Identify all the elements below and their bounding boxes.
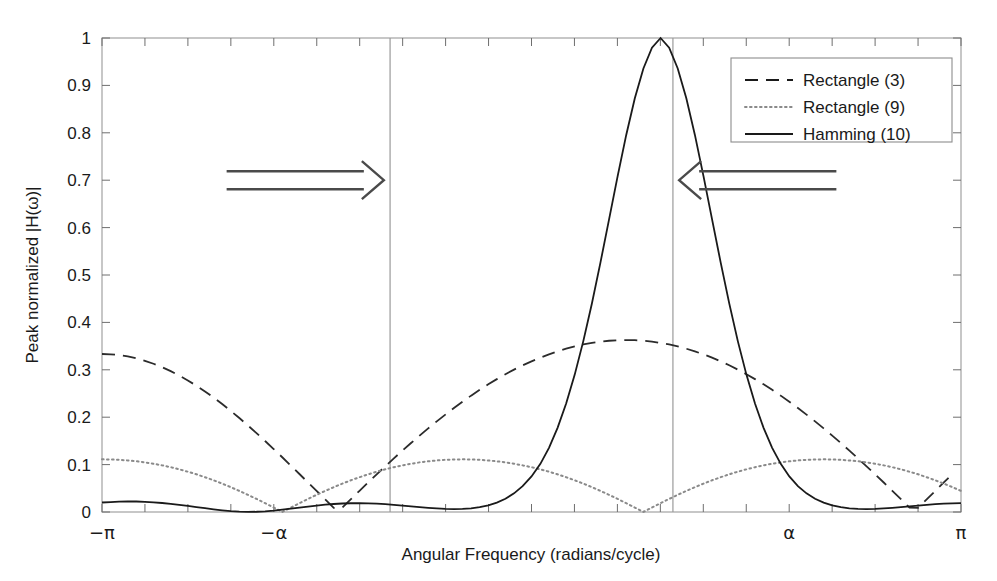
y-tick-label: 0.2: [67, 408, 91, 427]
x-tick-label: −π: [89, 522, 115, 543]
y-tick-label: 0.6: [67, 219, 91, 238]
frequency-response-plot: 00.10.20.30.40.50.60.70.80.91 −π−ααπ Pea…: [0, 0, 997, 581]
y-axis-label: Peak normalized |H(ω)|: [23, 186, 42, 363]
y-tick-label: 0.9: [67, 76, 91, 95]
chart-figure: 00.10.20.30.40.50.60.70.80.91 −π−ααπ Pea…: [0, 0, 997, 581]
y-tick-label: 0.8: [67, 124, 91, 143]
y-tick-label: 0.7: [67, 171, 91, 190]
y-tick-label: 0.4: [67, 313, 91, 332]
legend-label: Rectangle (3): [803, 71, 905, 90]
y-tick-label: 0: [82, 503, 91, 522]
x-axis-label: Angular Frequency (radians/cycle): [402, 545, 661, 564]
y-tick-label: 0.3: [67, 361, 91, 380]
x-tick-label: α: [783, 522, 795, 543]
x-tick-label: π: [956, 522, 967, 543]
legend-label: Rectangle (9): [803, 98, 905, 117]
legend-label: Hamming (10): [803, 125, 911, 144]
y-tick-label: 0.1: [67, 456, 91, 475]
legend: Rectangle (3)Rectangle (9)Hamming (10): [731, 58, 952, 144]
x-tick-label: −α: [260, 522, 287, 543]
y-tick-label: 1: [82, 29, 91, 48]
y-tick-label: 0.5: [67, 266, 91, 285]
